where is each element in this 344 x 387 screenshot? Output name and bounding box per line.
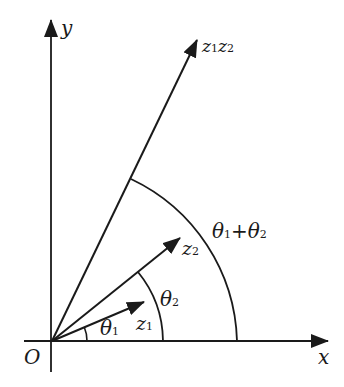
angle-arc-theta1 (84, 327, 87, 341)
vector-z1-label: z1 (135, 312, 153, 334)
angle-theta1-label: θ1 (100, 316, 119, 340)
diagram-canvas: y x O z1z2 z2 z1 θ1 θ2 θ1+θ2 (0, 0, 344, 387)
x-axis-label: x (318, 345, 329, 369)
angle-theta-sum-label: θ1+θ2 (212, 219, 267, 243)
origin-label: O (24, 345, 40, 369)
y-axis-label: y (60, 16, 73, 40)
angle-theta2-label: θ2 (160, 287, 179, 311)
vector-z1 (52, 302, 144, 341)
vector-z1z2-label: z1z2 (201, 36, 234, 56)
angle-arc-theta-sum (131, 179, 237, 341)
vector-z2-label: z2 (181, 237, 199, 259)
